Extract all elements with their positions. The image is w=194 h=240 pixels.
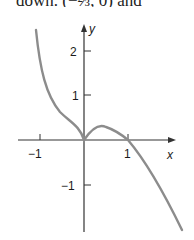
x-axis-arrow-icon (168, 137, 176, 143)
y-tick-label-1: 1 (72, 89, 79, 103)
graph: −1 1 2 1 −1 x y (0, 0, 194, 240)
x-tick-label-neg1: −1 (28, 147, 42, 161)
y-axis-arrow-icon (81, 24, 87, 32)
y-axis-label: y (88, 22, 96, 36)
x-tick-label-1: 1 (124, 147, 131, 161)
x-axis-label: x (166, 148, 174, 162)
y-tick-label-2: 2 (70, 45, 77, 59)
curve (36, 30, 182, 230)
y-tick-label-neg1: −1 (61, 179, 75, 193)
